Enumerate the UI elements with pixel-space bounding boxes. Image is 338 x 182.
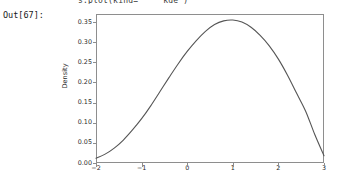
x-axis-tick-mark [187,163,188,167]
y-axis-title: Density [61,63,69,88]
x-axis-tick-mark [96,163,97,167]
x-axis-tick-labels: −2−10123 [0,0,338,182]
x-axis-tick-mark [324,163,325,167]
x-axis-tick-mark [278,163,279,167]
x-axis-tick-mark [233,163,234,167]
x-axis-tick-mark [142,163,143,167]
kde-density-plot-figure: 0.000.050.100.150.200.250.300.35 −2−1012… [0,0,338,182]
